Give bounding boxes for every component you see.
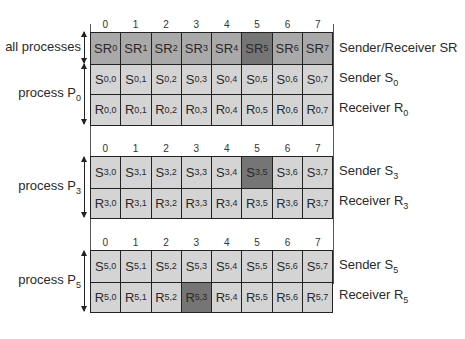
- column-index: 5: [242, 237, 272, 249]
- column-index: 1: [120, 143, 150, 155]
- column-index: 3: [181, 143, 211, 155]
- cell-subscript: 0,3: [194, 74, 207, 84]
- buffer-cell: R3,4: [211, 189, 241, 219]
- cell-label: R: [306, 196, 315, 211]
- buffer-cell: S0,1: [120, 65, 150, 95]
- cell-label: R: [216, 102, 225, 117]
- buffer-cell: SR0: [91, 33, 120, 64]
- cell-label: R: [155, 290, 164, 305]
- legend-text: Receiver R: [339, 193, 403, 208]
- cell-label: S: [186, 72, 195, 87]
- buffer-cell: R3,1: [120, 189, 150, 219]
- grid-row: SR0SR1SR2SR3SR4SR5SR6SR7: [91, 33, 332, 64]
- cell-subscript: 5,1: [134, 292, 147, 302]
- cell-label: R: [246, 102, 255, 117]
- cell-label: SR: [185, 41, 203, 56]
- column-index: 2: [151, 237, 181, 249]
- column-index: 0: [90, 19, 120, 31]
- cell-label: R: [125, 102, 134, 117]
- buffer-cell: S0,3: [181, 65, 211, 95]
- cell-label: S: [156, 165, 165, 180]
- cell-subscript: 3,3: [195, 198, 208, 208]
- cell-subscript: 6: [294, 43, 299, 53]
- cell-subscript: 5,7: [316, 292, 329, 302]
- cell-subscript: 2: [173, 43, 178, 53]
- cell-subscript: 5,7: [315, 261, 328, 271]
- cell-subscript: 5,3: [195, 292, 208, 302]
- cell-subscript: 0,1: [134, 105, 147, 115]
- column-index: 5: [242, 19, 272, 31]
- cell-subscript: 0,5: [255, 105, 268, 115]
- buffer-cell: SR6: [272, 33, 302, 64]
- buffer-cell: S0,2: [151, 65, 181, 95]
- column-index: 7: [303, 237, 333, 249]
- buffer-cell: R5,4: [211, 283, 241, 313]
- cell-label: R: [246, 196, 255, 211]
- span-arrow-process-p0: [84, 64, 85, 124]
- buffer-cell: R3,0: [91, 189, 120, 219]
- cell-label: SR: [94, 41, 112, 56]
- cell-label: SR: [245, 41, 263, 56]
- column-index: 7: [303, 19, 333, 31]
- cell-subscript: 0,6: [286, 105, 299, 115]
- cell-subscript: 3,2: [164, 167, 177, 177]
- buffer-cell: S0,0: [91, 65, 120, 95]
- column-index: 5: [242, 143, 272, 155]
- buffer-cell: S5,4: [211, 251, 241, 282]
- cell-subscript: 0,6: [285, 74, 298, 84]
- cell-subscript: 0,7: [316, 105, 329, 115]
- buffer-cell: R5,3: [181, 283, 211, 313]
- cell-subscript: 5,5: [255, 261, 268, 271]
- cell-label: S: [156, 259, 165, 274]
- cell-subscript: 0: [112, 43, 117, 53]
- buffer-cell: S0,7: [302, 65, 332, 95]
- cell-subscript: 5: [263, 43, 268, 53]
- cell-label: R: [95, 290, 104, 305]
- cell-subscript: 0,0: [104, 74, 117, 84]
- cell-subscript: 3,1: [134, 198, 147, 208]
- cell-label: R: [276, 290, 285, 305]
- legend-sender-s3: Sender S3: [339, 163, 398, 181]
- cell-label: S: [246, 259, 255, 274]
- buffer-cell: R5,5: [241, 283, 271, 313]
- column-index-row-block0: 0 1 2 3 4 5 6 7: [90, 19, 333, 31]
- cell-subscript: 5,1: [134, 261, 147, 271]
- cell-subscript: 0,7: [315, 74, 328, 84]
- legend-sub: 3: [403, 201, 408, 211]
- cell-label: S: [277, 259, 286, 274]
- grid-row: R3,0R3,1R3,2R3,3R3,4R3,5R3,6R3,7: [91, 188, 332, 219]
- buffer-cell: S5,3: [181, 251, 211, 282]
- cell-label: S: [307, 165, 316, 180]
- cell-label: S: [277, 165, 286, 180]
- cell-label: R: [125, 196, 134, 211]
- cell-label: S: [186, 259, 195, 274]
- buffer-cell: S3,6: [272, 157, 302, 188]
- grid-row: S3,0S3,1S3,2S3,3S3,4S3,5S3,6S3,7: [91, 157, 332, 188]
- cell-subscript: 1: [142, 43, 147, 53]
- cell-subscript: 5,6: [286, 292, 299, 302]
- buffer-cell: R0,1: [120, 95, 150, 125]
- cell-subscript: 3,0: [104, 198, 117, 208]
- cell-subscript: 5,0: [104, 292, 117, 302]
- legend-sub: 0: [403, 108, 408, 118]
- buffer-cell: S3,5: [241, 157, 271, 188]
- cell-label: R: [216, 290, 225, 305]
- column-index: 4: [212, 143, 242, 155]
- cell-label: S: [246, 72, 255, 87]
- legend-text: Sender S: [339, 163, 393, 178]
- legend-text: Receiver R: [339, 287, 403, 302]
- legend-sender-s0: Sender S0: [339, 70, 398, 88]
- cell-subscript: 0,4: [225, 105, 238, 115]
- column-index: 3: [181, 237, 211, 249]
- buffer-cell: R3,6: [272, 189, 302, 219]
- cell-subscript: 3,4: [225, 167, 238, 177]
- buffer-cell: S3,0: [91, 157, 120, 188]
- cell-label: S: [277, 72, 286, 87]
- cell-label: S: [216, 165, 225, 180]
- column-index: 4: [212, 19, 242, 31]
- cell-label: R: [246, 290, 255, 305]
- cell-subscript: 3,4: [225, 198, 238, 208]
- grid-row: R5,0R5,1R5,2R5,3R5,4R5,5R5,6R5,7: [91, 282, 332, 313]
- cell-subscript: 3,6: [286, 198, 299, 208]
- cell-label: S: [95, 259, 104, 274]
